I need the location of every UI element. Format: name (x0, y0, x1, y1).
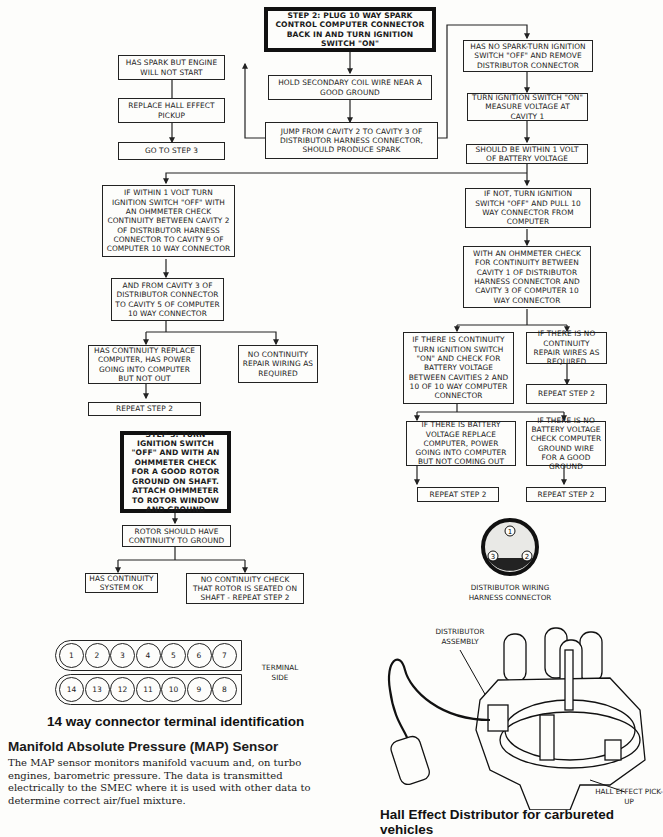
repeat-step2-r2: REPEAT STEP 2 (417, 487, 499, 502)
terminal-side-label: TERMINAL SIDE (255, 663, 305, 683)
and-from-cavity3-box: AND FROM CAVITY 3 OF DISTRIBUTOR CONNECT… (111, 278, 224, 321)
map-sensor-paragraph: The MAP sensor monitors manifold vacuum … (8, 757, 333, 807)
connector-pin-3: 3 (110, 643, 135, 668)
rotor-continuity-box: ROTOR SHOULD HAVE CONTINUITY TO GROUND (122, 525, 231, 547)
harness-connector-drawing: 1 3 2 (480, 518, 540, 576)
if-battery-box: IF THERE IS BATTERY VOLTAGE REPLACE COMP… (406, 421, 516, 466)
repeat-step2-r3: REPEAT STEP 2 (526, 487, 606, 502)
hall-effect-pickup-label: HALL EFFECT PICK-UP (595, 787, 663, 807)
if-continuity-box: IF THERE IS CONTINUITY TURN IGNITION SWI… (403, 332, 514, 404)
if-no-battery-box: IF THERE IS NO BATTERY VOLTAGE CHECK COM… (526, 421, 606, 466)
connector-pin-5: 5 (161, 643, 186, 668)
no-continuity-repair-box: NO CONTINUITY REPAIR WIRING AS REQUIRED (238, 345, 318, 383)
within-1v-box: SHOULD BE WITHIN 1 VOLT OF BATTERY VOLTA… (466, 144, 588, 164)
has-spark-box: HAS SPARK BUT ENGINE WILL NOT START (118, 55, 225, 80)
measure-voltage-box: TURN IGNITION SWITCH "ON" MEASURE VOLTAG… (467, 93, 588, 121)
system-ok-box: HAS CONTINUITY SYSTEM OK (85, 573, 158, 593)
repeat-step2-left: REPEAT STEP 2 (88, 402, 201, 416)
step2-header: STEP 2: PLUG 10 WAY SPARK CONTROL COMPUT… (264, 7, 436, 52)
distributor-caption: Hall Effect Distributor for carbureted v… (380, 807, 663, 837)
harness-connector-label: DISTRIBUTOR WIRING HARNESS CONNECTOR (460, 583, 560, 603)
connector-pin-1: 1 (59, 643, 84, 668)
jump-cavity-box: JUMP FROM CAVITY 2 TO CAVITY 3 OF DISTRI… (265, 122, 438, 159)
if-within-box: IF WITHIN 1 VOLT TURN IGNITION SWITCH "O… (102, 185, 235, 257)
if-no-continuity-box: IF THERE IS NO CONTINUITY REPAIR WIRES A… (526, 332, 607, 364)
connector-pin-9: 9 (187, 677, 212, 702)
pin-3-label: 3 (491, 553, 495, 561)
ohmmeter-cavity1-box: WITH AN OHMMETER CHECK FOR CONTINUITY BE… (463, 246, 591, 308)
pin-2-label: 2 (525, 553, 529, 561)
hold-coil-box: HOLD SECONDARY COIL WIRE NEAR A GOOD GRO… (268, 75, 432, 100)
connector-pin-14: 14 (59, 677, 84, 702)
has-continuity-replace-box: HAS CONTINUITY REPLACE COMPUTER, HAS POW… (88, 345, 201, 384)
connector-pin-7: 7 (212, 643, 237, 668)
goto-step3-box: GO TO STEP 3 (118, 142, 225, 160)
repeat-step2-r1: REPEAT STEP 2 (526, 384, 607, 404)
step3-header: STEP 3: TURN IGNITION SWITCH "OFF" AND W… (120, 431, 231, 513)
connector-pin-13: 13 (85, 677, 110, 702)
no-continuity-rotor-box: NO CONTINUITY CHECK THAT ROTOR IS SEATED… (186, 573, 304, 604)
connector-pin-6: 6 (187, 643, 212, 668)
connector-pin-12: 12 (110, 677, 135, 702)
if-not-box: IF NOT, TURN IGNITION SWITCH "OFF" AND P… (465, 188, 591, 228)
distributor-illustration (380, 620, 663, 810)
connector-pin-11: 11 (136, 677, 161, 702)
connector-pin-4: 4 (136, 643, 161, 668)
connector-pin-2: 2 (85, 643, 110, 668)
connector-pin-10: 10 (161, 677, 186, 702)
connector-pin-8: 8 (212, 677, 237, 702)
replace-hall-box: REPLACE HALL EFFECT PICKUP (118, 98, 225, 123)
map-sensor-heading: Manifold Absolute Pressure (MAP) Sensor (8, 739, 278, 754)
pin-1-label: 1 (508, 528, 512, 536)
connector-caption: 14 way connector terminal identification (47, 714, 304, 729)
no-spark-box: HAS NO SPARK-TURN IGNITION SWITCH "OFF" … (463, 40, 593, 72)
